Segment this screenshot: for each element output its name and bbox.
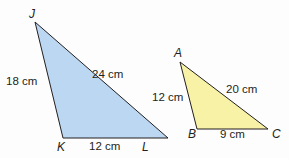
- vertex-label-c: C: [272, 128, 281, 140]
- vertex-label-k: K: [57, 141, 65, 153]
- side-label-jk: 18 cm: [6, 76, 37, 88]
- vertex-label-l: L: [142, 141, 149, 153]
- side-label-ab: 12 cm: [152, 92, 183, 104]
- vertex-label-a: A: [174, 47, 182, 59]
- similar-triangles-diagram: J K L 18 cm 24 cm 12 cm A B C 12 cm 20 c…: [0, 0, 289, 158]
- vertex-label-b: B: [188, 128, 196, 140]
- side-label-kl: 12 cm: [89, 141, 120, 153]
- side-label-ac: 20 cm: [226, 84, 257, 96]
- vertex-label-j: J: [29, 8, 35, 20]
- triangles-svg: [0, 0, 289, 158]
- side-label-bc: 9 cm: [220, 129, 245, 141]
- side-label-jl: 24 cm: [92, 69, 123, 81]
- triangle-abc: [180, 62, 268, 129]
